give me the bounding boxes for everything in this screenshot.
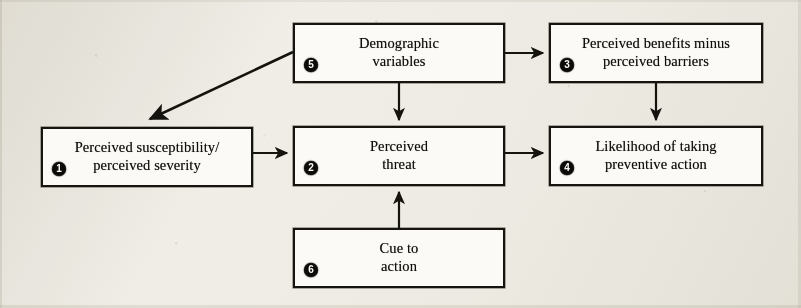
- diagram-canvas: Perceived susceptibility/ perceived seve…: [0, 0, 801, 308]
- arrow-demographic-to-susceptibility: [150, 52, 293, 119]
- node-label: Likelihood of taking preventive action: [551, 138, 761, 174]
- node-badge-4: 4: [560, 161, 574, 175]
- node-badge-5: 5: [304, 58, 318, 72]
- node-perceived-threat[interactable]: Perceived threat 2: [293, 126, 505, 186]
- node-label: Perceived benefits minus perceived barri…: [551, 35, 761, 71]
- node-likelihood-of-taking-preventive-action[interactable]: Likelihood of taking preventive action 4: [549, 126, 763, 186]
- node-label: Demographic variables: [295, 35, 503, 71]
- node-badge-1: 1: [52, 162, 66, 176]
- node-badge-2: 2: [304, 161, 318, 175]
- node-label: Cue to action: [295, 240, 503, 276]
- node-label: Perceived threat: [295, 138, 503, 174]
- node-perceived-susceptibility[interactable]: Perceived susceptibility/ perceived seve…: [41, 127, 253, 187]
- node-cue-to-action[interactable]: Cue to action 6: [293, 228, 505, 288]
- node-label: Perceived susceptibility/ perceived seve…: [43, 139, 251, 175]
- node-badge-3: 3: [560, 58, 574, 72]
- node-demographic-variables[interactable]: Demographic variables 5: [293, 23, 505, 83]
- node-badge-6: 6: [304, 263, 318, 277]
- node-perceived-benefits-minus-barriers[interactable]: Perceived benefits minus perceived barri…: [549, 23, 763, 83]
